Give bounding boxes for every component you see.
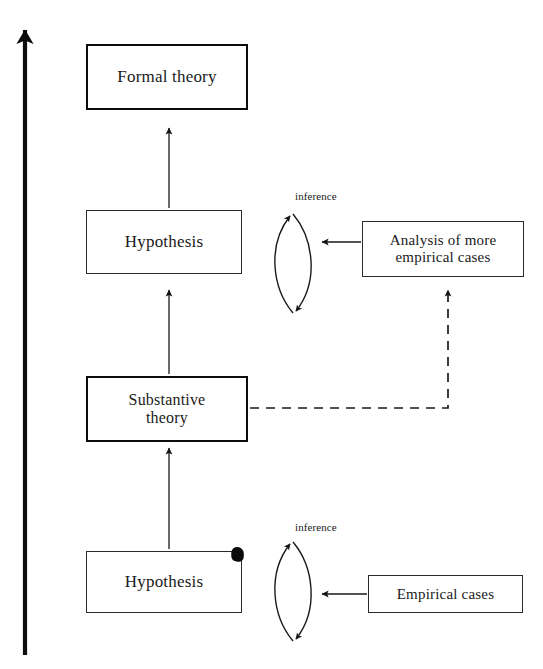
node-formal-theory-label: Formal theory	[117, 67, 216, 86]
inference-lens-upper	[275, 214, 311, 313]
node-hypothesis-lower-label: Hypothesis	[125, 572, 204, 591]
node-analysis-of-more-empirical-cases[interactable]: Analysis of more empirical cases	[362, 221, 524, 277]
edge-label-inference-upper: inference	[295, 190, 337, 202]
inference-lens-lower	[275, 542, 311, 641]
diagram-connectors-layer	[0, 0, 543, 669]
node-empirical-cases[interactable]: Empirical cases	[368, 575, 523, 613]
node-analysis-of-more-empirical-cases-label: Analysis of more empirical cases	[390, 232, 497, 266]
diagram-canvas: Formal theory Hypothesis Analysis of mor…	[0, 0, 543, 669]
node-empirical-cases-label: Empirical cases	[397, 586, 495, 603]
dashed-arrow-substantive-to-analysis	[250, 290, 448, 408]
node-hypothesis-upper[interactable]: Hypothesis	[86, 210, 242, 274]
edge-label-inference-lower: inference	[295, 521, 337, 533]
node-hypothesis-upper-label: Hypothesis	[125, 232, 204, 251]
node-substantive-theory-label: Substantive theory	[129, 391, 206, 427]
node-hypothesis-lower[interactable]: Hypothesis	[86, 551, 242, 613]
node-formal-theory[interactable]: Formal theory	[86, 44, 248, 110]
node-substantive-theory[interactable]: Substantive theory	[86, 376, 248, 442]
